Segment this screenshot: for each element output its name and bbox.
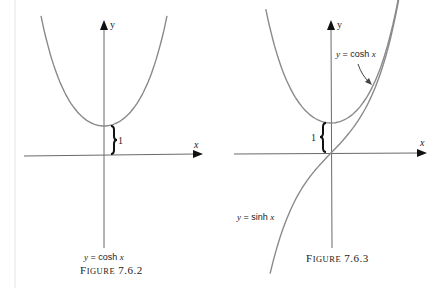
x-axis-arrow-icon [417,149,427,157]
y-axis-arrow-icon [327,20,335,30]
y-axis-label: y [110,19,115,30]
x-axis-label: x [193,139,199,150]
figure-7-6-2: x y 1 y = cosh x FIGURE 7.6.2 [24,16,203,276]
figure-caption: FIGURE 7.6.3 [306,252,369,264]
brace-label: 1 [118,135,123,146]
figure-caption: FIGURE 7.6.2 [80,264,143,276]
brace-icon [111,126,117,154]
brace-label: 1 [311,132,316,143]
sinh-curve [270,0,406,274]
x-axis-arrow-icon [193,150,203,158]
brace-icon [320,123,326,152]
figure-7-6-3: x y 1 y = cosh x y = sinh x FIGURE 7.6.3 [234,0,427,274]
curve-label: y = cosh x [83,252,124,262]
y-axis [331,28,332,248]
figures-canvas: x y 1 y = cosh x FIGURE 7.6.2 x y 1 [0,0,447,288]
x-axis [24,154,196,156]
x-axis [234,153,420,154]
x-axis-label: x [419,137,425,148]
y-axis-arrow-icon [100,20,108,30]
cosh-label: y = cosh x [335,49,376,59]
sinh-label: y = sinh x [236,212,274,222]
y-axis-label: y [337,19,342,30]
